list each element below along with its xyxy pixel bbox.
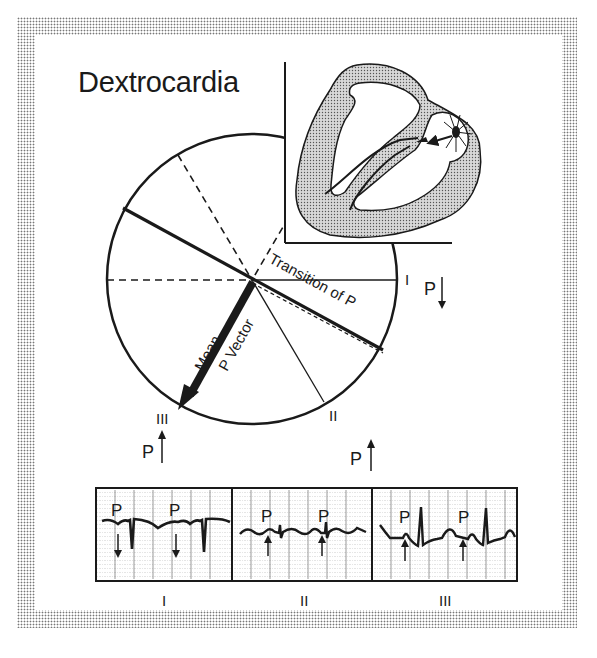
ecg-ii-p-label-1: P xyxy=(261,507,272,526)
ecg-lead-iii-label: III xyxy=(439,592,452,609)
lead-ii-p-label: P xyxy=(350,449,362,469)
heart-inset xyxy=(285,62,525,244)
lead-i-label: I xyxy=(405,271,409,288)
ecg-iii-p-label-1: P xyxy=(399,508,410,527)
lead-iii-p-label: P xyxy=(142,442,154,462)
ecg-strips: P P P P P P xyxy=(96,488,517,581)
ecg-lead-ii-label: II xyxy=(300,592,308,609)
lead-iii-label: III xyxy=(156,410,169,427)
dextrocardia-diagram: Transition of P Mean P Vector I P II P I… xyxy=(0,0,597,658)
lead-ii-label: II xyxy=(329,407,337,424)
ecg-ii-p-label-2: P xyxy=(318,507,329,526)
ecg-i-p-label-2: P xyxy=(169,501,180,520)
ecg-i-p-label-1: P xyxy=(111,501,122,520)
ecg-iii-p-label-2: P xyxy=(458,508,469,527)
lead-i-p-label: P xyxy=(424,279,436,299)
ecg-lead-i-label: I xyxy=(162,592,166,609)
